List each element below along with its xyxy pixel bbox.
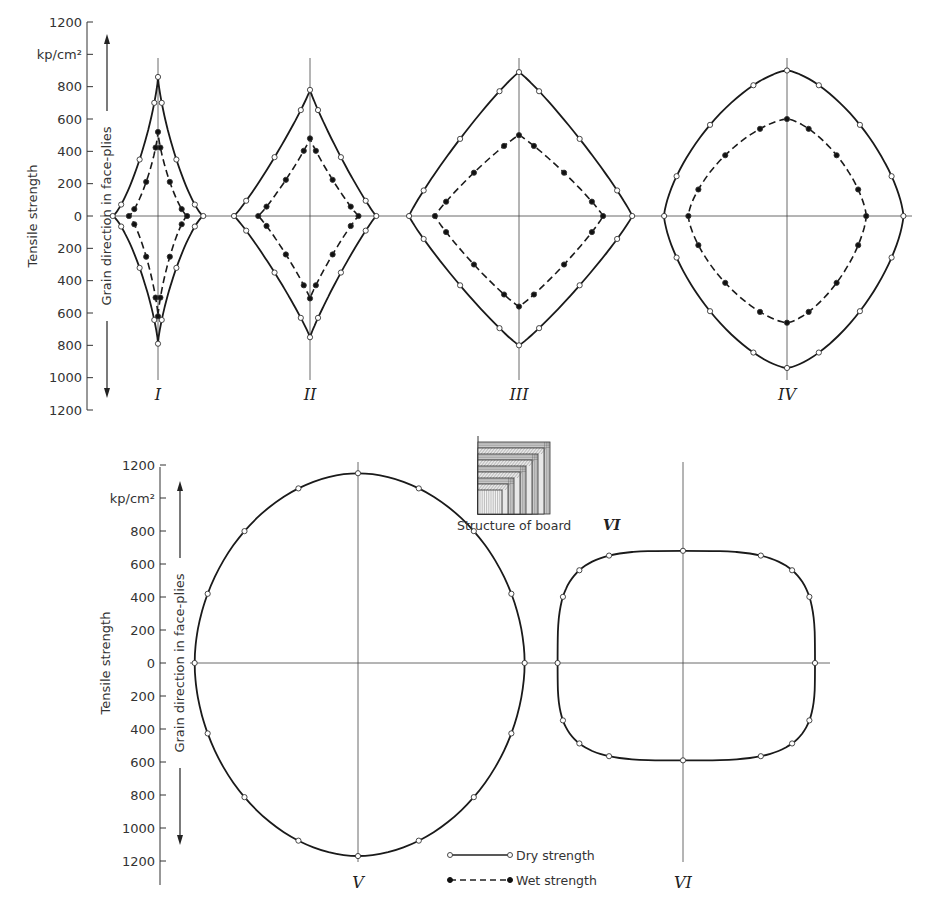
dry-data-point — [296, 486, 301, 491]
y-tick-label: 600 — [57, 112, 82, 127]
dry-data-point — [307, 335, 312, 340]
wet-data-point — [132, 206, 137, 211]
dry-data-point — [137, 265, 142, 270]
wet-data-point — [471, 262, 476, 267]
wet-data-point — [132, 222, 137, 227]
dry-data-point — [363, 228, 368, 233]
wet-data-point — [834, 280, 839, 285]
wet-data-point — [471, 170, 476, 175]
dry-data-point — [662, 213, 667, 218]
inset-board-label: VI — [603, 517, 621, 533]
y-tick-label: 400 — [57, 144, 82, 159]
dry-data-point — [205, 591, 210, 596]
wet-data-point — [185, 213, 190, 218]
dry-data-point — [159, 100, 164, 105]
dry-data-point — [707, 122, 712, 127]
wet-data-point — [301, 283, 306, 288]
dry-data-point — [497, 326, 502, 331]
wet-data-point — [589, 229, 594, 234]
y-tick-label: kp/cm² — [37, 47, 82, 62]
wet-data-point — [443, 229, 448, 234]
dry-data-point — [577, 136, 582, 141]
dry-data-point — [192, 202, 197, 207]
dry-data-point — [680, 548, 685, 553]
wet-data-point — [179, 222, 184, 227]
dry-data-point — [374, 213, 379, 218]
dry-data-point — [355, 471, 360, 476]
board-label-II: II — [303, 385, 317, 404]
y-tick-label: 800 — [57, 79, 82, 94]
wet-data-point — [806, 309, 811, 314]
wet-data-point — [443, 199, 448, 204]
dry-data-point — [577, 283, 582, 288]
board-label-VI: VI — [674, 873, 693, 892]
y-tick-label: 1200 — [122, 458, 155, 473]
y-tick-label: 200 — [130, 623, 155, 638]
y-tick-label: 200 — [130, 689, 155, 704]
dry-data-point — [674, 174, 679, 179]
dry-data-point — [152, 100, 157, 105]
wet-data-point — [757, 126, 762, 131]
wet-data-point — [330, 252, 335, 257]
wet-data-point — [686, 213, 691, 218]
wet-data-point — [126, 213, 131, 218]
y-tick-label: 800 — [130, 788, 155, 803]
wet-data-point — [834, 153, 839, 158]
dry-data-point — [155, 341, 160, 346]
wet-data-point — [856, 187, 861, 192]
dry-data-point — [857, 309, 862, 314]
wet-data-point — [806, 126, 811, 131]
wet-data-point — [501, 292, 506, 297]
dry-data-point — [338, 270, 343, 275]
dry-data-point — [119, 224, 124, 229]
y-tick-label: 1200 — [49, 403, 82, 418]
dry-data-point — [457, 136, 462, 141]
wet-data-point — [313, 148, 318, 153]
wet-data-point — [307, 296, 312, 301]
wet-data-point — [561, 170, 566, 175]
dry-data-point — [751, 83, 756, 88]
board-label-V: V — [352, 873, 365, 892]
legend-dry-label: Dry strength — [516, 848, 595, 863]
y-tick-label: 200 — [57, 176, 82, 191]
dry-data-point — [155, 74, 160, 79]
y-axis-title: Tensile strength — [98, 612, 113, 716]
dry-data-point — [889, 255, 894, 260]
dry-data-point — [577, 568, 582, 573]
dry-data-point — [516, 343, 521, 348]
arrow-down-icon — [104, 388, 110, 398]
dry-data-point — [471, 795, 476, 800]
wet-data-point — [531, 143, 536, 148]
dry-data-point — [789, 568, 794, 573]
y-tick-label: 0 — [147, 656, 155, 671]
wet-data-point — [561, 262, 566, 267]
dry-data-point — [272, 155, 277, 160]
dry-data-point — [272, 270, 277, 275]
dry-data-point — [315, 315, 320, 320]
dry-data-point — [751, 350, 756, 355]
y-tick-label: 1200 — [49, 15, 82, 30]
wet-curve-IV — [686, 116, 869, 325]
wet-data-point — [516, 133, 521, 138]
dry-data-point — [522, 660, 527, 665]
dry-data-point — [789, 741, 794, 746]
dry-data-point — [784, 68, 789, 73]
wet-data-point — [696, 187, 701, 192]
wet-data-point — [153, 145, 158, 150]
dry-data-point — [901, 213, 906, 218]
dry-data-point — [298, 315, 303, 320]
dry-data-point — [509, 591, 514, 596]
y-tick-label: 600 — [130, 755, 155, 770]
dry-data-point — [242, 795, 247, 800]
legend-wet-label: Wet strength — [516, 873, 597, 888]
wet-data-point — [432, 213, 437, 218]
dry-data-point — [315, 107, 320, 112]
dry-data-point — [201, 213, 206, 218]
wet-data-point — [856, 243, 861, 248]
wet-data-point — [264, 223, 269, 228]
dry-data-point — [244, 228, 249, 233]
wet-data-point — [501, 143, 506, 148]
dry-curve-VI — [555, 548, 818, 763]
dry-data-point — [457, 283, 462, 288]
dry-data-point — [674, 255, 679, 260]
